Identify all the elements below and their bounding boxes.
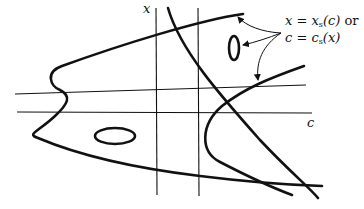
vertical-line-right: [198, 8, 199, 196]
annot1-eq: =: [292, 13, 311, 28]
annot1-tail: or: [340, 13, 358, 28]
annot2-fn: c: [311, 30, 318, 45]
arrow-to-upper-curve: [238, 17, 281, 33]
c-axis-label: c: [307, 115, 314, 130]
horizontal-line-c-axis: [17, 112, 312, 113]
arrow-to-ellipse: [243, 33, 281, 45]
ellipse-small-vertical: [229, 36, 239, 60]
annotation-line-2: c = cs(x): [285, 30, 340, 50]
x-axis-label: x: [143, 1, 150, 16]
annot1-fn: x: [312, 13, 319, 28]
ellipse-horizontal: [95, 128, 135, 144]
annot2-arg: (x): [323, 30, 340, 45]
annot1-arg: (c): [323, 13, 340, 28]
annot2-eq: =: [292, 30, 311, 45]
